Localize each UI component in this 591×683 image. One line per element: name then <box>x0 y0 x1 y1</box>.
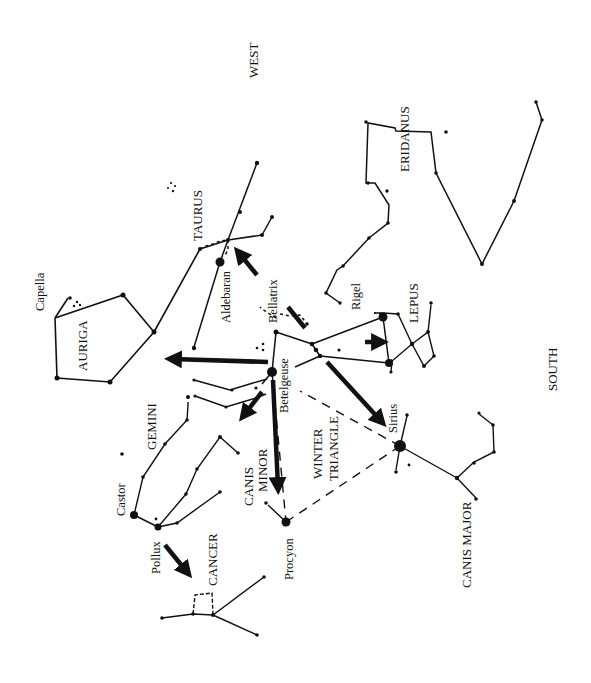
aldebaran-star <box>216 258 225 267</box>
label-bellatrix: Bellatrix <box>266 279 280 323</box>
label-procyon: Procyon <box>282 538 296 580</box>
label-taurus: TAURUS <box>190 190 205 241</box>
eridanus-stars <box>324 100 544 304</box>
label-canis-major: CANIS MAJOR <box>459 501 474 588</box>
label-winter-triangle-line2: TRIANGLE <box>326 416 341 481</box>
label-canis-minor-line1: CANIS <box>241 467 256 506</box>
pollux-star <box>155 524 162 531</box>
eridanus-figure <box>326 102 542 303</box>
castor-star <box>130 511 138 519</box>
arrow-to-aldebaran <box>239 253 257 275</box>
gomeisa-star <box>264 501 268 505</box>
canis-major-figure <box>396 414 494 498</box>
label-eridanus: ERIDANUS <box>397 106 412 172</box>
direction-west: WEST <box>246 43 261 78</box>
label-winter-triangle-line1: WINTER <box>310 428 325 479</box>
label-betelgeuse: Betelgeuse <box>277 358 291 413</box>
label-sirius: Sirius <box>386 404 400 433</box>
label-rigel: Rigel <box>349 282 363 310</box>
label-cancer: CANCER <box>205 533 220 586</box>
label-auriga: AURIGA <box>75 320 90 371</box>
label-castor: Castor <box>114 483 128 516</box>
star-chart: WEST SOUTH TAURUS AURIGA GEMINI ERIDANUS… <box>0 0 591 683</box>
label-aldebaran: Aldebaran <box>219 270 233 323</box>
label-lepus: LEPUS <box>406 283 421 323</box>
label-gemini: GEMINI <box>144 403 159 450</box>
auriga-stars <box>55 293 157 385</box>
arrow-to-sirius <box>327 362 381 421</box>
canis-major-stars <box>394 411 496 500</box>
pleiades-cluster <box>167 182 176 192</box>
taurus-figure <box>194 163 272 347</box>
label-capella: Capella <box>33 272 47 311</box>
arrow-to-cancer <box>165 545 187 572</box>
arrow-to-auriga <box>172 359 268 362</box>
label-pollux: Pollux <box>149 541 163 574</box>
direction-south: SOUTH <box>545 348 560 391</box>
arrow-to-gemini <box>244 392 262 415</box>
arrow-belt-segment <box>288 307 305 328</box>
gemini-stars <box>120 378 257 524</box>
label-canis-minor-line2: MINOR <box>255 448 270 492</box>
